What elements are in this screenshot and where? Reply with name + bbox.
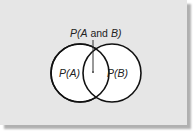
diagram-card: P(A and B) P(A) P(B) — [0, 0, 187, 125]
venn-diagram: P(A and B) P(A) P(B) — [0, 0, 195, 133]
circle-a-label: P(A) — [59, 67, 80, 79]
circle-b-label: P(B) — [107, 67, 128, 79]
intersection-label: P(A and B) — [70, 27, 121, 39]
intersection-dot — [92, 71, 94, 73]
